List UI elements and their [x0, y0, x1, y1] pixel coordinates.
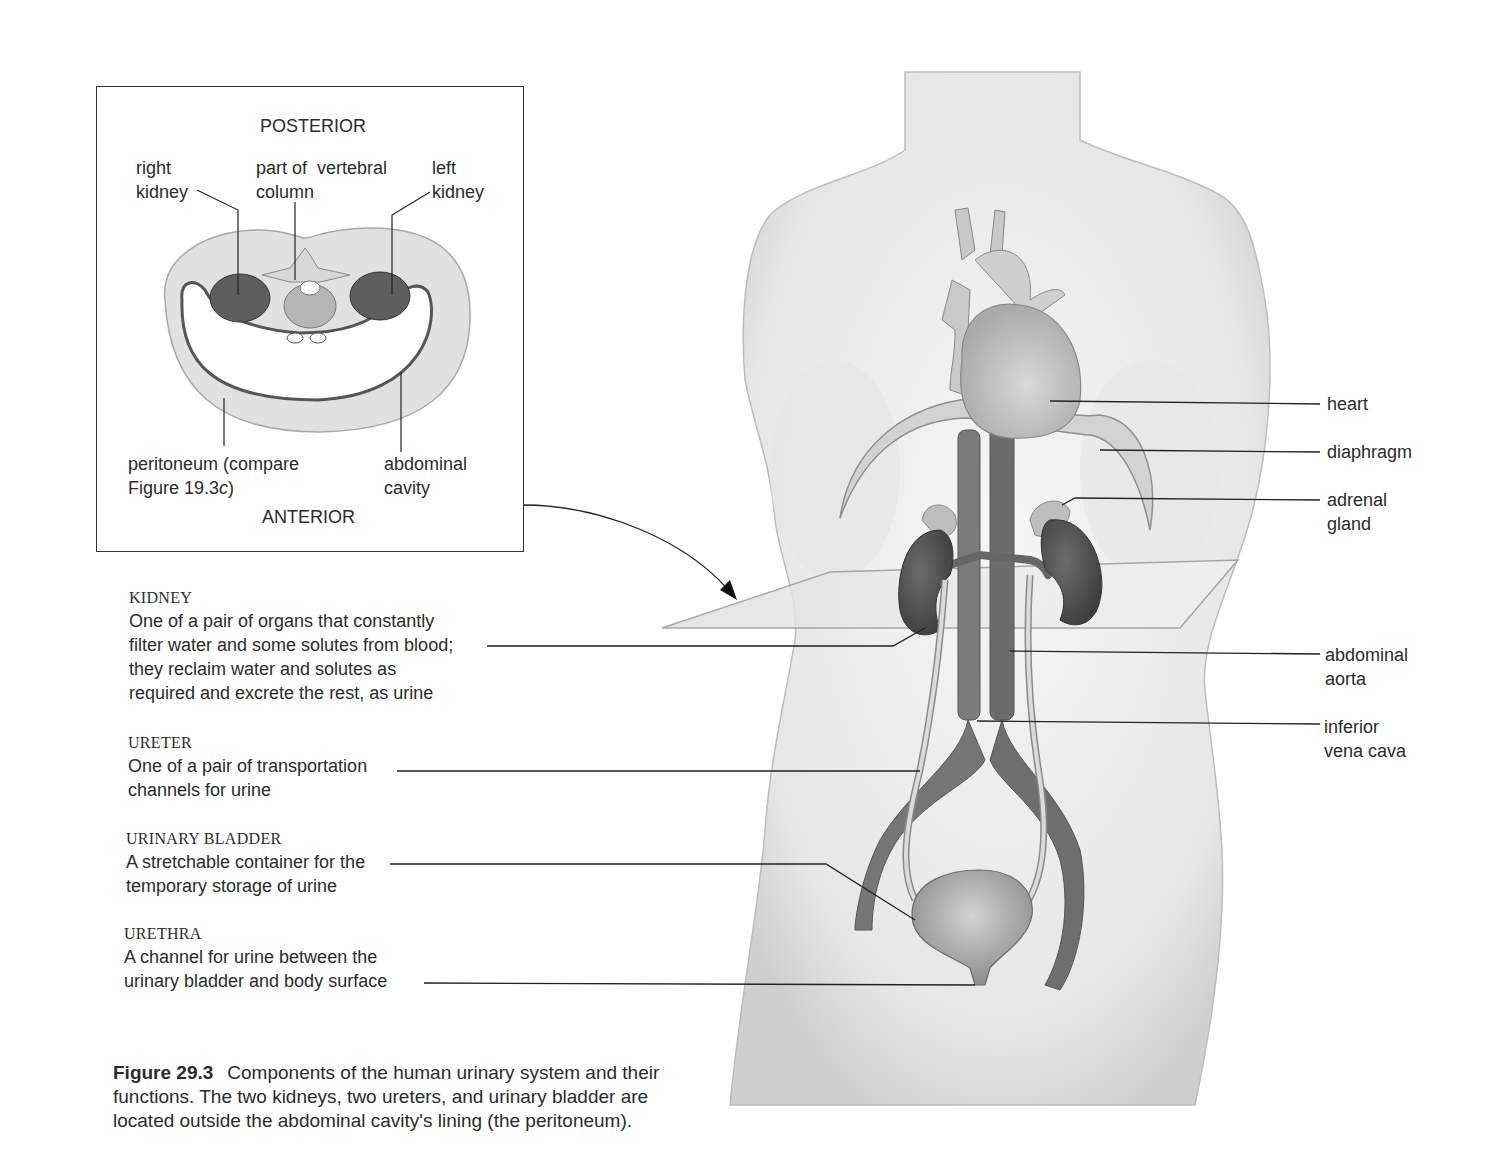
- urinary-bladder-description: URINARY BLADDER A stretchable container …: [126, 828, 365, 898]
- peritoneum-figure-ref-suffix: c: [219, 478, 228, 498]
- figure-caption: Figure 29.3Components of the human urina…: [113, 1061, 673, 1133]
- urethra-desc-line: urinary bladder and body surface: [124, 969, 387, 993]
- urethra-desc-line: A channel for urine between the: [124, 945, 387, 969]
- caption-line-2: functions. The two kidneys, two ureters,…: [113, 1085, 673, 1109]
- vertebral-column-label-line2: column: [256, 180, 387, 204]
- urinary-bladder-desc-line: A stretchable container for the: [126, 850, 365, 874]
- right-kidney-label-line1: right: [136, 156, 188, 180]
- adrenal-gland-label-line1: adrenal: [1327, 488, 1387, 512]
- ureter-desc-line: channels for urine: [128, 778, 367, 802]
- caption-line-3: located outside the abdominal cavity's l…: [113, 1109, 673, 1133]
- adrenal-gland-label-line2: gland: [1327, 512, 1387, 536]
- diaphragm-label-text: diaphragm: [1327, 440, 1412, 464]
- urinary-bladder-heading: URINARY BLADDER: [126, 828, 365, 850]
- caption-line-1: Figure 29.3Components of the human urina…: [113, 1061, 673, 1085]
- abdominal-aorta-label-line2: aorta: [1325, 667, 1408, 691]
- ureter-desc-line: One of a pair of transportation: [128, 754, 367, 778]
- kidney-desc-line: required and excrete the rest, as urine: [129, 681, 453, 705]
- urethra-description: URETHRA A channel for urine between the …: [124, 923, 387, 993]
- kidney-description: KIDNEY One of a pair of organs that cons…: [129, 587, 453, 705]
- peritoneum-label: peritoneum (compare Figure 19.3c): [128, 452, 299, 500]
- ureter-heading: URETER: [128, 732, 367, 754]
- abdominal-cavity-label-line1: abdominal: [384, 452, 467, 476]
- kidney-heading: KIDNEY: [129, 587, 453, 609]
- abdominal-aorta-label-line1: abdominal: [1325, 643, 1408, 667]
- figure-number: Figure 29.3: [113, 1062, 213, 1083]
- anterior-label: ANTERIOR: [262, 505, 355, 529]
- left-kidney-label-line1: left: [432, 156, 484, 180]
- vertebral-column-label: part of vertebral column: [256, 156, 387, 204]
- right-kidney-label: right kidney: [136, 156, 188, 204]
- peritoneum-label-line2: Figure 19.3c): [128, 476, 299, 500]
- inferior-vena-cava-label-line2: vena cava: [1324, 739, 1406, 763]
- urinary-bladder-desc-line: temporary storage of urine: [126, 874, 365, 898]
- abdominal-cavity-label-line2: cavity: [384, 476, 467, 500]
- peritoneum-label-line1: peritoneum (compare: [128, 452, 299, 476]
- inferior-vena-cava-label-line1: inferior: [1324, 715, 1406, 739]
- kidney-desc-line: One of a pair of organs that constantly: [129, 609, 453, 633]
- left-kidney-label-line2: kidney: [432, 180, 484, 204]
- diaphragm-label: diaphragm: [1327, 440, 1412, 464]
- kidney-desc-line: they reclaim water and solutes as: [129, 657, 453, 681]
- ureter-description: URETER One of a pair of transportation c…: [128, 732, 367, 802]
- urethra-heading: URETHRA: [124, 923, 387, 945]
- abdominal-aorta-label: abdominal aorta: [1325, 643, 1408, 691]
- heart-label-text: heart: [1327, 392, 1368, 416]
- peritoneum-close-paren: ): [228, 478, 234, 498]
- right-kidney-label-line2: kidney: [136, 180, 188, 204]
- left-kidney-label: left kidney: [432, 156, 484, 204]
- abdominal-cavity-label: abdominal cavity: [384, 452, 467, 500]
- adrenal-gland-label: adrenal gland: [1327, 488, 1387, 536]
- kidney-desc-line: filter water and some solutes from blood…: [129, 633, 453, 657]
- peritoneum-figure-ref: Figure 19.3: [128, 478, 219, 498]
- inferior-vena-cava-label: inferior vena cava: [1324, 715, 1406, 763]
- heart-label: heart: [1327, 392, 1368, 416]
- caption-text: Components of the human urinary system a…: [227, 1062, 659, 1083]
- posterior-label: POSTERIOR: [260, 114, 366, 138]
- vertebral-column-label-line1: part of vertebral: [256, 156, 387, 180]
